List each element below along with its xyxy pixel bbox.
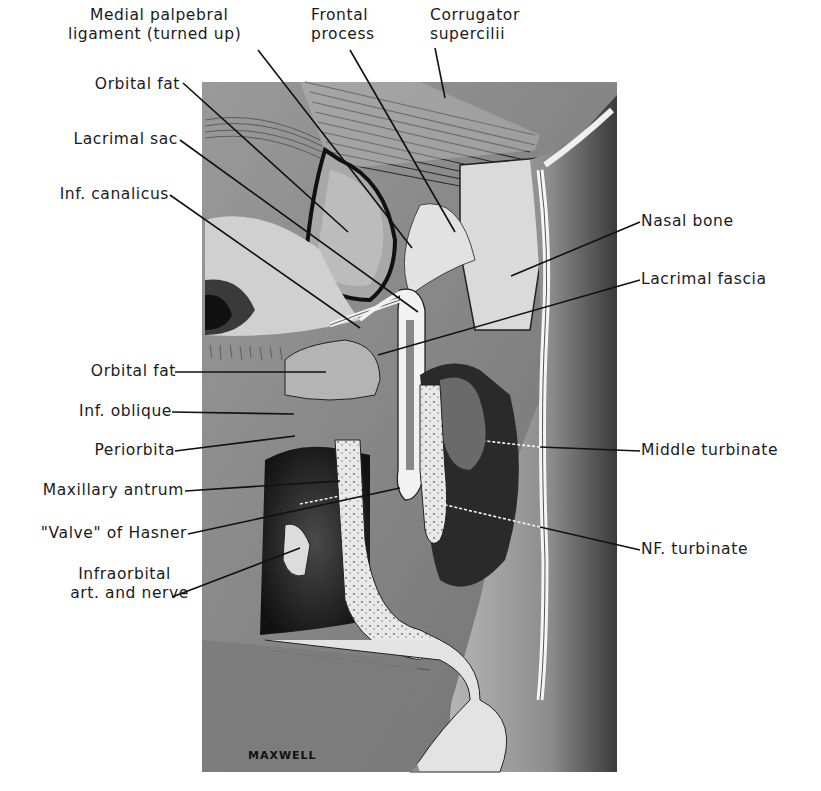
label-orbital-fat-lower: Orbital fat bbox=[91, 362, 176, 381]
label-medial-palpebral-ligament: Medial palpebral ligament (turned up) bbox=[68, 6, 241, 44]
label-valve-of-hasner: "Valve" of Hasner bbox=[41, 524, 187, 543]
label-lacrimal-fascia: Lacrimal fascia bbox=[641, 270, 767, 289]
label-inf-oblique: Inf. oblique bbox=[79, 402, 172, 421]
label-line: ligament (turned up) bbox=[68, 25, 241, 44]
label-corrugator-supercilii: Corrugator supercilii bbox=[430, 6, 520, 44]
label-infraorbital-art-nerve: Infraorbital art. and nerve bbox=[70, 565, 189, 603]
label-nf-turbinate: NF. turbinate bbox=[641, 540, 748, 559]
label-line: Medial palpebral bbox=[68, 6, 241, 25]
label-line: process bbox=[311, 25, 375, 44]
anatomical-illustration: MAXWELL bbox=[0, 0, 821, 791]
label-middle-turbinate: Middle turbinate bbox=[641, 441, 778, 460]
label-nasal-bone: Nasal bone bbox=[641, 212, 734, 231]
label-line: Corrugator bbox=[430, 6, 520, 25]
label-orbital-fat-upper: Orbital fat bbox=[95, 75, 180, 94]
label-inf-canalicus: Inf. canalicus bbox=[60, 185, 169, 204]
label-maxillary-antrum: Maxillary antrum bbox=[43, 481, 184, 500]
label-line: art. and nerve bbox=[70, 584, 189, 603]
label-line: Frontal bbox=[311, 6, 375, 25]
label-line: Infraorbital bbox=[70, 565, 189, 584]
label-line: supercilii bbox=[430, 25, 520, 44]
label-lacrimal-sac: Lacrimal sac bbox=[74, 130, 178, 149]
anatomical-figure: MAXWELL bbox=[0, 0, 821, 791]
label-periorbita: Periorbita bbox=[94, 441, 175, 460]
artist-signature: MAXWELL bbox=[248, 749, 317, 762]
label-frontal-process: Frontal process bbox=[311, 6, 375, 44]
